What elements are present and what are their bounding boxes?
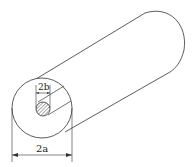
outer-cylinder-top-edge	[31, 13, 145, 82]
outer-diameter-label: 2a	[36, 144, 48, 154]
inner-wire-cross-section	[36, 102, 50, 116]
coaxial-cylinder-diagram	[0, 0, 194, 167]
outer-cylinder-bottom-edge	[65, 72, 170, 132]
inner-diameter-label: 2b	[38, 83, 50, 92]
outer-cylinder-back-arc	[145, 11, 185, 72]
